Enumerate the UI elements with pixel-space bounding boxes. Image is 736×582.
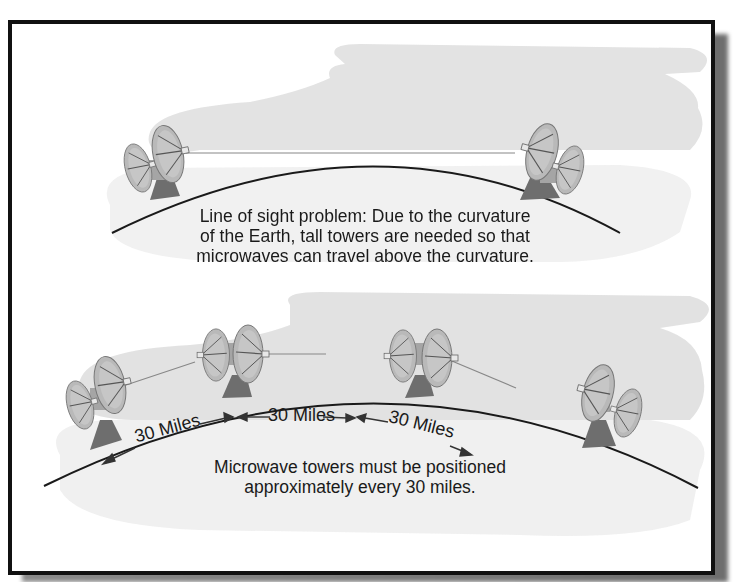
top-caption-line-2: of the Earth, tall towers are needed so … — [150, 226, 580, 246]
top-caption-line-3: microwaves can travel above the curvatur… — [150, 246, 580, 266]
top-caption-line-1: Line of sight problem: Due to the curvat… — [150, 206, 580, 226]
bottom-caption-line-2: approximately every 30 miles. — [160, 477, 560, 497]
distance-label-2: 30 Miles — [268, 405, 335, 426]
top-caption: Line of sight problem: Due to the curvat… — [150, 206, 580, 266]
bottom-caption: Microwave towers must be positioned appr… — [160, 457, 560, 497]
bottom-caption-line-1: Microwave towers must be positioned — [160, 457, 560, 477]
bottom-cloud-backdrop — [56, 292, 709, 536]
